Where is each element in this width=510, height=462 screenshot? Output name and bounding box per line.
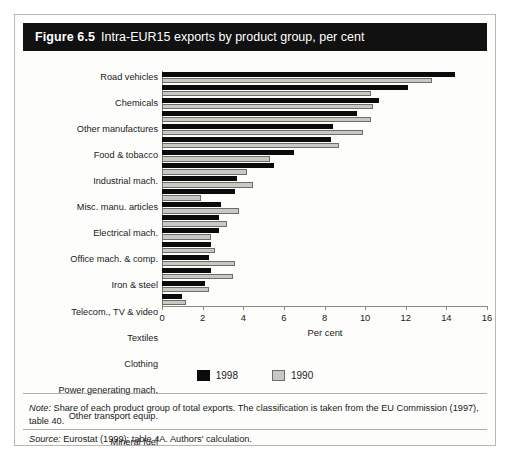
bar-1990 [162,287,209,292]
category-label: Textiles [23,333,158,343]
x-tick [284,306,285,310]
bar-1998 [162,137,331,142]
notes-divider [23,393,487,394]
figure-container: Figure 6.5 Intra-EUR15 exports by produc… [14,14,496,446]
x-tick-label: 0 [150,312,174,323]
bar-1998 [162,189,235,194]
category-label: Office mach. & comp. [23,254,158,264]
bar-1990 [162,104,373,109]
figure-title-bar: Figure 6.5 Intra-EUR15 exports by produc… [23,23,487,51]
bar-1998 [162,242,211,247]
legend-item-1998: 1998 [197,370,238,381]
bar-group: Office mach. & comp. [162,162,487,175]
bars-area: Road vehiclesChemicalsOther manufactures… [162,71,487,306]
bar-1990 [162,221,227,226]
figure-number: Figure 6.5 [35,30,95,44]
bar-1998 [162,215,219,220]
bar-group: Non-fuel materials [162,267,487,280]
x-tick [203,306,204,310]
x-axis-label: Per cent [162,327,488,338]
x-tick [243,306,244,310]
bar-1990 [162,130,363,135]
bar-1990 [162,234,211,239]
bar-group: Other manufactures [162,97,487,110]
category-label: Electrical mach. [23,228,158,238]
bar-1990 [162,143,339,148]
x-tick-label: 12 [394,312,418,323]
source-keyword: Source: [29,434,61,444]
bar-1998 [162,281,205,286]
bar-1990 [162,300,186,305]
category-label: Chemicals [23,98,158,108]
x-tick-label: 8 [313,312,337,323]
bar-group: Clothing [162,215,487,228]
legend-swatch-1990-icon [272,370,285,381]
category-label: Iron & steel [23,280,158,290]
category-label: Road vehicles [23,72,158,82]
bar-group: Misc. manu. articles [162,136,487,149]
bar-1990 [162,169,247,174]
source-line: Source: Eurostat (1999): table 4A. Autho… [29,433,485,446]
bar-1998 [162,202,221,207]
x-tick [446,306,447,310]
note-text: Share of each product group of total exp… [29,403,479,426]
bar-group: Non-ferrous metals [162,280,487,293]
bar-group: Food & tobacco [162,110,487,123]
legend-label-1998: 1998 [216,370,238,381]
bar-1998 [162,294,182,299]
bar-1990 [162,156,270,161]
category-label: Other manufactures [23,124,158,134]
source-text: Eurostat (1999): table 4A. Authors' calc… [61,434,252,444]
bar-group: Footwear [162,293,487,306]
x-tick-label: 2 [191,312,215,323]
bar-1990 [162,274,233,279]
bar-1998 [162,124,333,129]
figure-notes: Note: Share of each product group of tot… [29,402,485,452]
footer-divider [23,429,487,430]
note-line: Note: Share of each product group of tot… [29,402,485,427]
legend-label-1990: 1990 [291,370,313,381]
bar-1998 [162,228,219,233]
bar-1998 [162,85,408,90]
x-tick [487,306,488,310]
bar-1990 [162,91,371,96]
bar-group: Electrical mach. [162,149,487,162]
bar-1998 [162,268,211,273]
x-tick-label: 4 [231,312,255,323]
bar-1990 [162,248,215,253]
bar-group: Road vehicles [162,71,487,84]
bar-group: Iron & steel [162,175,487,188]
page-title: Intra-EUR15 exports by product group, pe… [101,30,364,44]
x-tick [162,306,163,310]
bar-group: Other transport equip. [162,241,487,254]
bar-group: Power generating mach. [162,228,487,241]
bar-1998 [162,176,237,181]
bar-1998 [162,163,274,168]
category-label: Misc. manu. articles [23,202,158,212]
x-tick [325,306,326,310]
x-tick-label: 16 [475,312,499,323]
bar-1990 [162,182,253,187]
bar-group: Chemicals [162,84,487,97]
bar-1998 [162,150,294,155]
bar-1990 [162,78,432,83]
x-tick [365,306,366,310]
legend-item-1990: 1990 [272,370,313,381]
bar-group: Mineral fuel [162,254,487,267]
x-tick-label: 6 [272,312,296,323]
bar-1990 [162,261,235,266]
legend-swatch-1998-icon [197,370,210,381]
category-label: Telecom., TV & video [23,307,158,317]
x-tick-label: 14 [434,312,458,323]
bar-1990 [162,117,371,122]
chart-legend: 1998 1990 [23,370,487,381]
chart-plot: Road vehiclesChemicalsOther manufactures… [23,59,487,359]
category-label: Industrial mach. [23,176,158,186]
bar-1998 [162,255,209,260]
category-label: Food & tobacco [23,150,158,160]
bar-group: Industrial mach. [162,123,487,136]
bar-group: Textiles [162,202,487,215]
x-tick-label: 10 [353,312,377,323]
note-keyword: Note: [29,403,51,413]
bar-group: Telecom., TV & video [162,189,487,202]
